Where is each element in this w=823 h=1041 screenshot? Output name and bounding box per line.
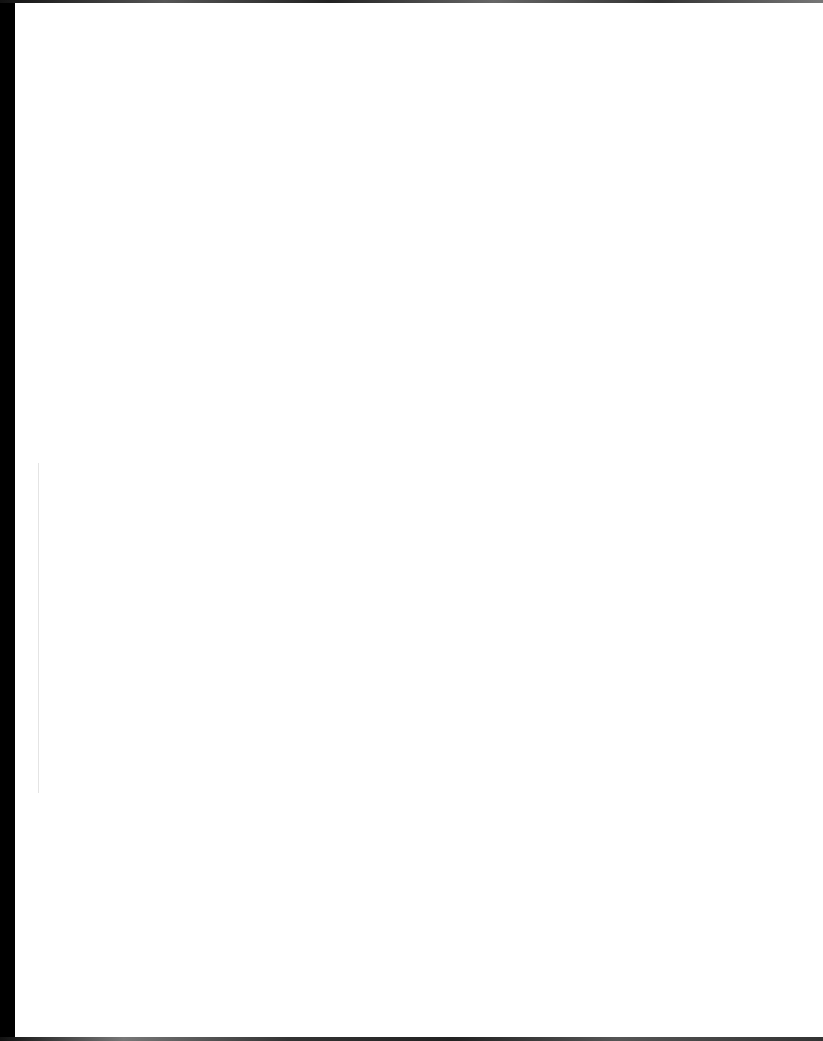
scanner-edge-bottom (0, 1037, 823, 1041)
blank-page (15, 3, 823, 1037)
scanner-edge-top (0, 0, 823, 3)
scanner-edge-left (0, 0, 15, 1041)
page-fold-line (38, 463, 39, 793)
